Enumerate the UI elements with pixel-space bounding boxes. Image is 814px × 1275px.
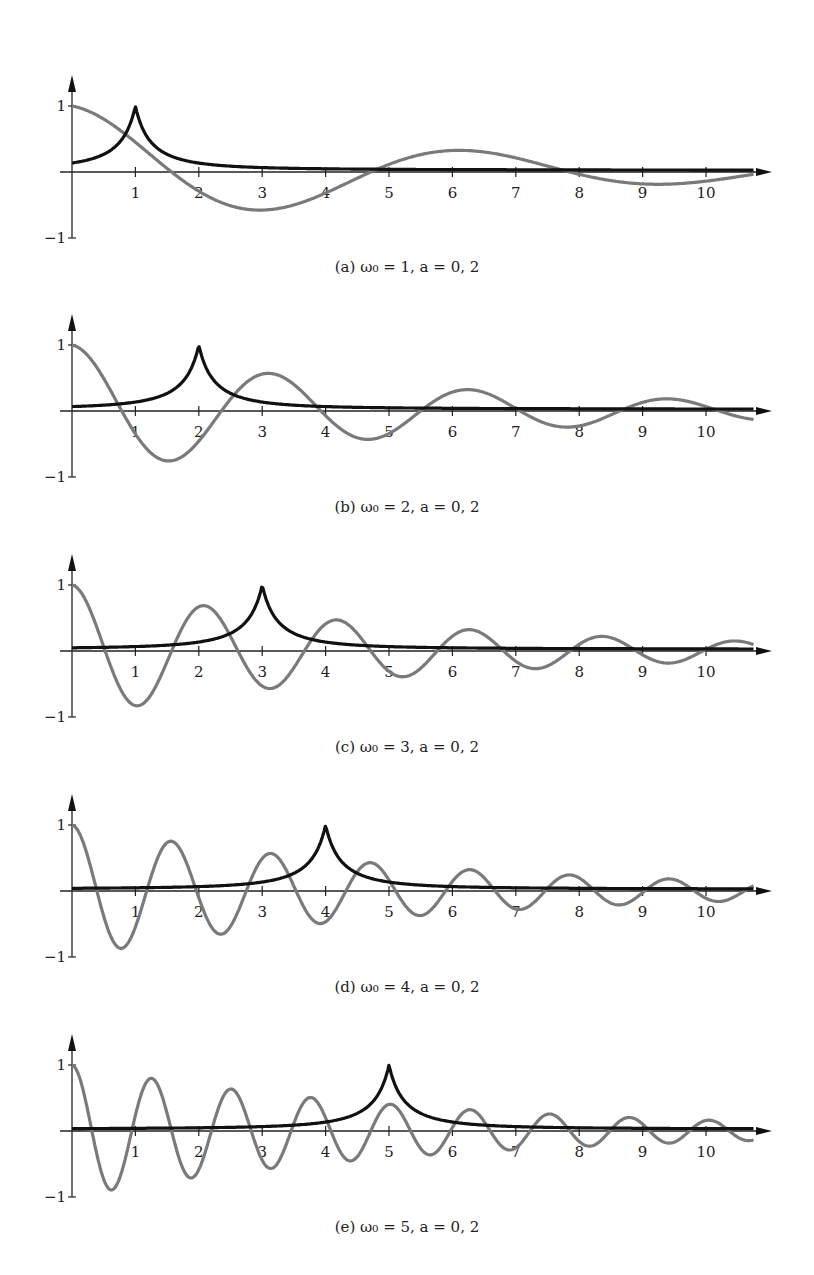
plot-svg-e: 1−112345678910 bbox=[0, 0, 814, 1275]
x-tick-label: 5 bbox=[384, 1143, 394, 1161]
x-tick-label: 4 bbox=[321, 1143, 331, 1161]
y-tick-label: −1 bbox=[44, 1188, 66, 1206]
x-tick-label: 1 bbox=[131, 1143, 141, 1161]
caption-e: (e) ω₀ = 5, a = 0, 2 bbox=[0, 1218, 814, 1236]
x-tick-label: 6 bbox=[448, 1143, 458, 1161]
y-tick-label: 1 bbox=[56, 1056, 66, 1074]
x-tick-label: 9 bbox=[638, 1143, 648, 1161]
resonance-peak-curve bbox=[72, 1065, 754, 1128]
x-tick-label: 10 bbox=[696, 1143, 715, 1161]
y-axis-arrow-icon bbox=[68, 1034, 76, 1051]
chart-panel-e: 1−112345678910(e) ω₀ = 5, a = 0, 2 bbox=[0, 0, 814, 1275]
figure: 1−112345678910(a) ω₀ = 1, a = 0, 21−1123… bbox=[0, 0, 814, 1275]
x-axis-arrow-icon bbox=[756, 1127, 772, 1135]
